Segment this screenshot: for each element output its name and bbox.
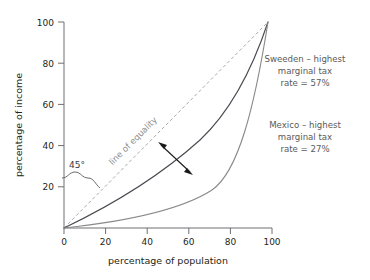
mexico-annotation-line3: rate = 27% xyxy=(280,144,329,154)
y-tick-label-20: 20 xyxy=(43,182,55,192)
angle-brace-group: 45° xyxy=(62,160,100,188)
y-tick-labels: 100 80 60 40 20 xyxy=(37,18,54,193)
x-tick-marks xyxy=(64,228,272,234)
x-tick-label-0: 0 xyxy=(61,237,67,247)
angle-brace xyxy=(62,172,100,188)
y-tick-label-60: 60 xyxy=(43,100,55,110)
x-tick-label-100: 100 xyxy=(263,237,280,247)
mexico-annotation-line1: Mexico – highest xyxy=(269,120,341,130)
sweden-annotation: Sweeden – highest marginal tax rate = 57… xyxy=(265,54,347,88)
chart-canvas: 100 80 60 40 20 0 20 40 60 80 100 percen… xyxy=(0,0,370,280)
x-tick-labels: 0 20 40 60 80 100 xyxy=(61,237,281,247)
lorenz-curve-chart: 100 80 60 40 20 0 20 40 60 80 100 percen… xyxy=(0,0,370,280)
x-axis-title: percentage of population xyxy=(108,255,228,266)
line-of-equality xyxy=(64,22,268,228)
angle-45-label: 45° xyxy=(69,160,85,170)
sweden-annotation-line1: Sweeden – highest xyxy=(265,54,347,64)
x-tick-label-40: 40 xyxy=(141,237,153,247)
line-of-equality-label: line of equality xyxy=(107,115,159,167)
y-axis-title: percentage of income xyxy=(13,73,24,177)
sweden-annotation-line3: rate = 57% xyxy=(280,78,329,88)
y-tick-label-80: 80 xyxy=(43,59,55,69)
x-tick-label-20: 20 xyxy=(100,237,112,247)
mexico-annotation-line2: marginal tax xyxy=(278,132,332,142)
mexico-annotation: Mexico – highest marginal tax rate = 27% xyxy=(269,120,341,154)
y-tick-marks xyxy=(58,22,64,187)
x-tick-label-80: 80 xyxy=(225,237,237,247)
sweden-annotation-line2: marginal tax xyxy=(278,66,332,76)
y-tick-label-100: 100 xyxy=(37,18,54,28)
x-tick-label-60: 60 xyxy=(183,237,195,247)
y-tick-label-40: 40 xyxy=(43,141,55,151)
